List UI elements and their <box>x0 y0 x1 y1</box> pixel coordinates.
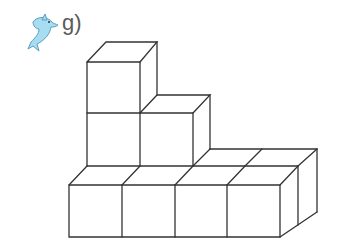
cube-structure-figure <box>0 0 349 246</box>
